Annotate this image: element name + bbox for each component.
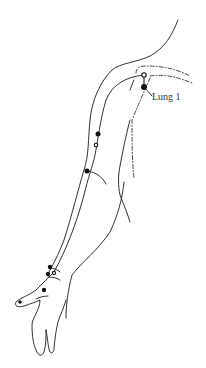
axilla-curve xyxy=(130,80,134,90)
acupoint[interactable] xyxy=(96,132,101,137)
arm-outline-upper xyxy=(48,20,178,274)
arm-outline-inner xyxy=(54,75,144,272)
acupoint-open[interactable] xyxy=(94,143,98,147)
acupoint-lung-1[interactable] xyxy=(141,84,147,90)
lung-1-label: Lung 1 xyxy=(152,91,181,102)
chest-dashed-outline xyxy=(132,78,150,178)
shoulder-dashed-outline-lower xyxy=(150,75,192,83)
thumb-crease xyxy=(36,296,48,299)
hand-fingers xyxy=(46,300,66,353)
acupoint[interactable] xyxy=(85,169,90,174)
acupoint-open[interactable] xyxy=(52,271,55,274)
torso-outline xyxy=(119,120,131,222)
arm-meridian-diagram xyxy=(0,0,206,368)
acupoint-open[interactable] xyxy=(142,73,146,77)
acupoint[interactable] xyxy=(48,265,52,269)
acupoint[interactable] xyxy=(42,288,46,292)
acupoint[interactable] xyxy=(46,272,50,276)
acupoint[interactable] xyxy=(18,300,22,304)
